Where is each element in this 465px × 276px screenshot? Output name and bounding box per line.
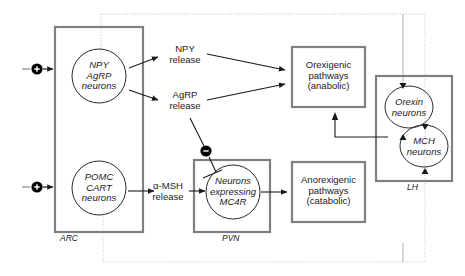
input-arrow-pomc <box>22 181 53 192</box>
label-anorexigenic-pathways: Anorexigenic pathways (catabolic) <box>294 175 363 207</box>
label-pomc-cart-neurons: POMC CART neurons <box>72 172 126 204</box>
label-agrp-release: AgRP release <box>163 90 207 111</box>
label-mch-neurons: MCH neurons <box>398 136 450 157</box>
arrowhead-out-mch <box>422 168 429 174</box>
region-label-pvn: PVN <box>222 233 239 243</box>
label-orexigenic-pathways: Orexigenic pathways (anabolic) <box>294 60 363 92</box>
arrowhead-into-mch <box>422 124 429 130</box>
label-mc4r-neurons: Neurons expressing MC4R <box>203 176 263 208</box>
arrow-agrp-release-to-orexigenic <box>207 84 285 100</box>
arrow-npy-release-to-orexigenic <box>207 54 285 70</box>
arrow-lh-to-orexigenic <box>332 112 388 137</box>
label-orexin-neurons: Orexin neurons <box>383 97 435 118</box>
region-label-lh: LH <box>407 182 418 192</box>
region-label-arc: ARC <box>60 233 78 243</box>
label-npy-agrp-neurons: NPY AgRP neurons <box>72 60 126 92</box>
label-amsh-release: α-MSH release <box>146 181 190 202</box>
label-npy-release: NPY release <box>163 44 207 65</box>
diagram-canvas: NPY AgRP neurons POMC CART neurons Neuro… <box>0 0 465 276</box>
input-arrow-npy <box>22 63 53 74</box>
